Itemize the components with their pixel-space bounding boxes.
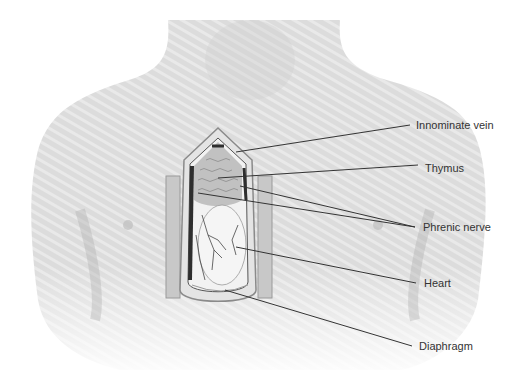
label-thymus: Thymus: [425, 162, 464, 174]
right-retractor: [258, 176, 272, 298]
label-heart: Heart: [424, 277, 451, 289]
illustration: [0, 0, 513, 380]
label-phrenic-nerve: Phrenic nerve: [423, 221, 491, 233]
right-cavity-edge: [244, 168, 246, 200]
anatomy-figure: Innominate vein Thymus Phrenic nerve Hea…: [0, 0, 513, 380]
label-diaphragm: Diaphragm: [419, 340, 473, 352]
neck-shadow: [205, 20, 295, 100]
left-nipple: [123, 220, 133, 230]
label-innominate-vein: Innominate vein: [416, 119, 494, 131]
left-retractor: [166, 176, 180, 298]
left-cavity-edge: [190, 166, 192, 280]
